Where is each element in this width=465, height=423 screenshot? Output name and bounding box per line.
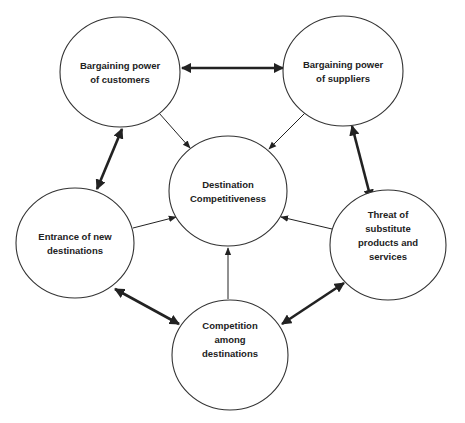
node-threat-of-substitutes: Threat of substitute products and servic… [330, 190, 446, 300]
svg-text:products and: products and [358, 237, 418, 248]
node-destination-competitiveness: Destination Competitiveness [169, 136, 287, 246]
svg-text:Threat of: Threat of [368, 209, 409, 220]
svg-text:of customers: of customers [90, 74, 150, 85]
arrow-customers-new-entrants [97, 129, 122, 189]
svg-text:substitute: substitute [365, 223, 410, 234]
svg-text:Destination: Destination [202, 179, 254, 190]
svg-text:Competition: Competition [202, 320, 258, 331]
node-competition-among-destinations: Competition among destinations [172, 300, 288, 410]
node-bargaining-power-customers: Bargaining power of customers [60, 17, 180, 127]
arrow-suppliers-to-center [269, 113, 305, 149]
svg-text:of suppliers: of suppliers [316, 73, 370, 84]
arrow-suppliers-substitutes [352, 126, 371, 199]
arrow-substitutes-to-center [281, 217, 332, 229]
svg-text:Bargaining power: Bargaining power [303, 59, 384, 70]
arrow-substitutes-rivalry [282, 283, 344, 324]
svg-text:among: among [214, 334, 245, 345]
svg-text:Entrance of new: Entrance of new [38, 231, 112, 242]
arrow-customers-to-center [159, 113, 190, 148]
arrow-new-entrants-rivalry [115, 289, 179, 324]
arrow-new-entrants-to-center [133, 217, 176, 228]
destination-competitiveness-diagram: Bargaining power of customers Bargaining… [0, 0, 465, 423]
svg-text:Bargaining power: Bargaining power [80, 60, 161, 71]
node-entrance-new-destinations: Entrance of new destinations [16, 188, 134, 298]
svg-text:destinations: destinations [47, 245, 103, 256]
svg-text:Competitiveness: Competitiveness [190, 193, 266, 204]
svg-text:destinations: destinations [202, 348, 258, 359]
node-bargaining-power-suppliers: Bargaining power of suppliers [283, 16, 403, 126]
svg-text:services: services [369, 251, 407, 262]
